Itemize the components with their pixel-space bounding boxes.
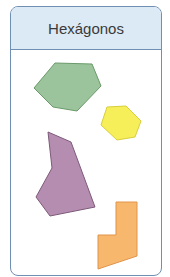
shapes-canvas <box>0 0 170 277</box>
orange-hexagon <box>98 202 137 269</box>
green-hexagon <box>34 63 101 111</box>
purple-hexagon <box>36 132 95 216</box>
yellow-hexagon <box>101 106 141 140</box>
